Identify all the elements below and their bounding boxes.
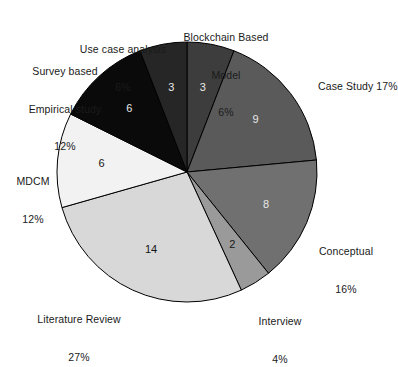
wedge-value-literature-review: 14: [145, 243, 157, 255]
callout-blockchain-label-line2: Model: [168, 69, 284, 82]
callout-conceptual: Conceptual 16%: [306, 220, 386, 320]
callout-mdcm-percent: 12%: [2, 213, 64, 226]
callout-case-study: Case Study 17%: [306, 67, 390, 105]
callout-survey-label-line1: Survey based: [6, 65, 124, 78]
callout-literature-review-label: Literature Review: [18, 313, 140, 326]
callout-interview-percent: 4%: [238, 353, 322, 366]
callout-case-study-label: Case Study 17%: [318, 80, 398, 92]
callout-blockchain-percent: 6%: [168, 106, 284, 119]
callout-conceptual-label: Conceptual: [306, 245, 386, 258]
callout-mdcm-label: MDCM: [2, 175, 64, 188]
wedge-value-interview: 2: [229, 238, 235, 250]
wedge-value-conceptual: 8: [263, 198, 269, 210]
callout-survey-label-line2: Empirical study: [6, 103, 124, 116]
callout-blockchain-based-model: Blockchain Based Model 6%: [168, 6, 284, 144]
callout-blockchain-label-line1: Blockchain Based: [168, 31, 284, 44]
callout-literature-review-percent: 27%: [18, 351, 140, 364]
callout-conceptual-percent: 16%: [306, 283, 386, 296]
callout-literature-review: Literature Review 27%: [18, 288, 140, 367]
callout-mdcm: MDCM 12%: [2, 150, 64, 250]
